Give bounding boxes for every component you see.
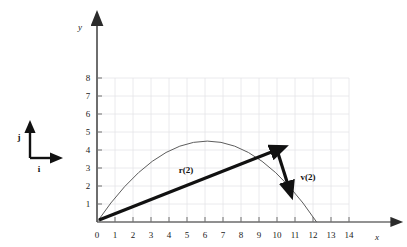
x-tick-label-0: 0 bbox=[95, 230, 100, 240]
y-tick-label-6: 6 bbox=[86, 109, 91, 119]
x-tick-label-3: 3 bbox=[149, 230, 154, 240]
grid bbox=[97, 78, 349, 222]
y-tick-label-4: 4 bbox=[86, 145, 91, 155]
y-tick-label-5: 5 bbox=[86, 127, 91, 137]
y-tick-label-7: 7 bbox=[86, 91, 91, 101]
y-tick-label-8: 8 bbox=[86, 73, 91, 83]
x-tick-label-11: 11 bbox=[291, 230, 300, 240]
trajectory-curve bbox=[97, 141, 317, 222]
x-tick-label-2: 2 bbox=[131, 230, 136, 240]
projectile-motion-plot: y x 0 1 2 3 4 5 6 7 8 9 10 11 12 13 14 1… bbox=[0, 0, 407, 247]
basis-label-i: i bbox=[38, 164, 41, 174]
x-tick-label-1: 1 bbox=[113, 230, 118, 240]
figure-canvas: y x 0 1 2 3 4 5 6 7 8 9 10 11 12 13 14 1… bbox=[0, 0, 407, 247]
x-tick-label-12: 12 bbox=[309, 230, 318, 240]
y-tick-label-3: 3 bbox=[86, 163, 91, 173]
y-axis-label: y bbox=[77, 22, 82, 32]
x-tick-label-9: 9 bbox=[257, 230, 262, 240]
x-tick-label-7: 7 bbox=[221, 230, 226, 240]
y-tick-label-1: 1 bbox=[86, 199, 91, 209]
x-tick-label-14: 14 bbox=[345, 230, 355, 240]
x-tick-label-13: 13 bbox=[327, 230, 337, 240]
y-tick-label-2: 2 bbox=[86, 181, 91, 191]
x-axis-label: x bbox=[374, 232, 379, 242]
basis-label-j: j bbox=[17, 132, 21, 142]
x-tick-label-6: 6 bbox=[203, 230, 208, 240]
x-tick-label-4: 4 bbox=[167, 230, 172, 240]
x-tick-label-8: 8 bbox=[239, 230, 244, 240]
position-vector-label: r(2) bbox=[179, 165, 194, 175]
velocity-vector-label: v(2) bbox=[301, 172, 316, 182]
x-tick-label-10: 10 bbox=[273, 230, 283, 240]
x-tick-label-5: 5 bbox=[185, 230, 190, 240]
